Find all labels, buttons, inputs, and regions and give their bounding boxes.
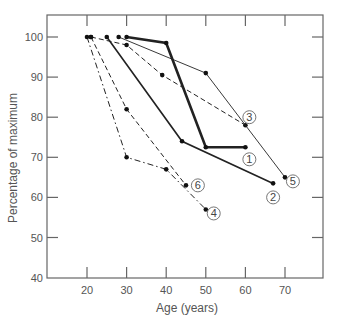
data-point [180,139,185,144]
x-tick-label: 50 [200,284,212,296]
y-tick-label: 80 [31,111,43,123]
data-point [85,35,90,40]
data-point [164,41,169,46]
x-tick-label: 60 [239,284,251,296]
x-axis: 203040506070 [81,15,291,296]
series-label-2: 2 [270,191,276,203]
series-label-5: 5 [290,175,296,187]
y-tick-label: 50 [31,232,43,244]
series-line-1 [127,37,246,147]
y-tick-label: 70 [31,151,43,163]
series-line-5 [119,37,285,177]
y-tick-label: 90 [31,71,43,83]
plot-border [47,15,323,278]
data-point [124,107,129,112]
data-point [116,35,121,40]
x-tick-label: 40 [160,284,172,296]
data-point [184,183,189,188]
x-tick-label: 30 [120,284,132,296]
data-point [204,145,209,150]
y-tick-label: 40 [31,272,43,284]
data-point [160,73,165,78]
data-point [204,71,209,76]
plot-frame [47,15,323,278]
y-axis: 405060708090100 [25,31,323,284]
data-point [271,181,276,186]
data-point [124,155,129,160]
data-point [243,145,248,150]
series-label-4: 4 [211,207,217,219]
data-point [89,35,94,40]
y-tick-label: 60 [31,191,43,203]
series-line-4 [87,37,206,209]
series-label-3: 3 [246,111,252,123]
x-axis-title: Age (years) [156,301,218,315]
data-point [124,35,129,40]
x-tick-label: 70 [279,284,291,296]
line-chart: 405060708090100 203040506070 123456 Perc… [0,0,337,326]
y-tick-label: 100 [25,31,43,43]
data-point [164,167,169,172]
series-group [85,35,288,212]
x-tick-label: 20 [81,284,93,296]
series-label-1: 1 [246,153,252,165]
data-point [105,35,110,40]
data-point [124,43,129,48]
y-axis-title: Percentage of maximum [6,93,20,223]
series-label-6: 6 [195,179,201,191]
